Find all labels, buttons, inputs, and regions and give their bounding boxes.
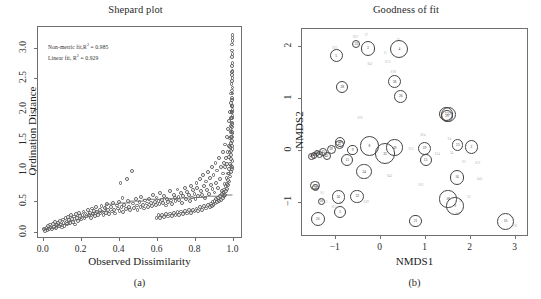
shepard-point xyxy=(170,202,174,206)
panel-a-annotation-nonmetric: Non-metric fit,R2 = 0.985 xyxy=(48,42,108,50)
shepard-point xyxy=(207,192,211,196)
gof-site-label: S13 xyxy=(385,60,390,64)
shepard-point xyxy=(113,212,117,216)
panel-b-x-tick xyxy=(335,236,336,239)
panel-b-x-tick xyxy=(380,236,381,239)
shepard-point xyxy=(230,139,234,143)
gof-bubble-label: 13 xyxy=(424,158,428,162)
panel-b-x-axis-title: NMDS1 xyxy=(301,255,528,267)
gof-bubble-label: 9 xyxy=(352,148,354,152)
shepard-point xyxy=(168,189,172,193)
panel-a-y-tick-label: 2.0 xyxy=(18,96,28,120)
gof-site-label: S15 xyxy=(408,147,413,151)
shepard-point xyxy=(204,180,208,184)
panel-b-x-tick-label: 2 xyxy=(450,242,490,252)
nmds-diagnostic-figure: Shepard plot Ordination Distance Observe… xyxy=(0,0,541,299)
gof-bubble-label: 39 xyxy=(329,147,333,151)
panel-a-x-tick xyxy=(157,238,158,241)
panel-a-x-tick-label: 0.6 xyxy=(137,244,177,254)
gof-site-label: S22 xyxy=(353,35,358,39)
panel-a-x-tick xyxy=(233,238,234,241)
panel-b-x-tick xyxy=(515,236,516,239)
gof-bubble-label: 21 xyxy=(414,219,418,223)
panel-a-x-axis-title: Observed Dissimilarity xyxy=(37,255,242,267)
shepard-point xyxy=(231,61,235,65)
gof-bubble-label: 11 xyxy=(346,158,349,162)
gof-bubble-label: 32 xyxy=(355,194,359,198)
panel-a-x-tick xyxy=(43,238,44,241)
annot-nonmetric-suffix: = 0.985 xyxy=(89,44,108,50)
panel-b-title: Goodness of fit xyxy=(271,4,541,15)
gof-site-label: S18 xyxy=(391,70,396,74)
panel-b-caption: (b) xyxy=(301,277,528,288)
gof-site-label: S4 xyxy=(448,137,452,141)
gof-bubble-label: 2 xyxy=(470,145,472,149)
panel-a-x-tick-label: 0.0 xyxy=(23,244,63,254)
shepard-point xyxy=(126,199,130,203)
gof-bubble-label: 3 xyxy=(367,46,369,50)
shepard-point xyxy=(203,196,207,200)
panel-b-y-tick-label: 2 xyxy=(283,34,293,56)
shepard-point xyxy=(231,147,235,151)
gof-site-label: 11 xyxy=(383,51,386,55)
shepard-point xyxy=(231,104,235,108)
shepard-point xyxy=(230,98,234,102)
panel-a-x-tick-label: 0.2 xyxy=(61,244,101,254)
shepard-point xyxy=(210,165,214,169)
panel-b-x-tick-label: 1 xyxy=(405,242,445,252)
shepard-point xyxy=(229,164,233,168)
panel-a-x-tick-label: 1.0 xyxy=(213,244,253,254)
shepard-point xyxy=(189,184,193,188)
panel-a-y-tick-label: 3.0 xyxy=(18,35,28,59)
panel-a-y-tick-label: 2.5 xyxy=(18,65,28,89)
shepard-point xyxy=(214,161,218,165)
gof-bubble-label: 35 xyxy=(383,152,387,156)
gof-bubble-label: 5 xyxy=(339,210,341,214)
shepard-point xyxy=(208,176,212,180)
shepard-point xyxy=(154,203,158,207)
panel-a-y-tick xyxy=(34,201,37,202)
gof-bubble-label: 50 xyxy=(319,199,323,203)
gof-bubble-label: 41 xyxy=(337,142,341,146)
panel-shepard-plot: Shepard plot Ordination Distance Observe… xyxy=(0,0,271,299)
gof-bubble-label: 23 xyxy=(354,42,358,46)
panel-b-x-tick xyxy=(425,236,426,239)
panel-a-y-tick-label: 1.0 xyxy=(18,157,28,181)
gof-bubble-label: 26 xyxy=(399,94,403,98)
panel-a-x-tick xyxy=(195,238,196,241)
gof-site-label: S14 xyxy=(435,152,440,156)
shepard-point xyxy=(147,197,151,201)
annot-linear-suffix: = 0.929 xyxy=(79,55,98,61)
panel-a-y-tick-label: 0.0 xyxy=(18,219,28,243)
gof-site-label: S24 xyxy=(420,133,425,137)
gof-site-label: 37 xyxy=(364,33,367,37)
gof-site-label: S1 xyxy=(462,160,466,164)
gof-bubble-label: 25 xyxy=(456,143,460,147)
gof-bubble-label: 30 xyxy=(316,217,320,221)
panel-b-y-tick-label: 1 xyxy=(283,86,293,108)
gof-bubble-label: 42 xyxy=(325,154,329,158)
gof-site-label: S29 xyxy=(364,200,369,204)
gof-site-label: S41 xyxy=(367,62,372,66)
gof-site-label: S43 xyxy=(477,177,482,181)
shepard-point xyxy=(198,177,202,181)
panel-a-title: Shepard plot xyxy=(0,4,271,15)
gof-bubble-label: 5 xyxy=(335,54,337,58)
gof-site-label: 34 xyxy=(450,151,453,155)
shepard-point xyxy=(227,172,231,176)
shepard-point xyxy=(212,173,216,177)
panel-a-x-tick xyxy=(119,238,120,241)
shepard-point xyxy=(130,169,134,173)
gof-bubble-label: 19 xyxy=(423,146,427,150)
panel-goodness-of-fit: Goodness of fit NMDS2 NMDS1 (b) −10123−1… xyxy=(271,0,541,299)
shepard-point xyxy=(226,178,230,182)
annot-nonmetric-prefix: Non-metric fit,R xyxy=(48,44,87,50)
gof-site-label: S6 xyxy=(514,224,518,228)
panel-a-y-tick xyxy=(34,109,37,110)
shepard-point xyxy=(231,52,235,56)
panel-a-y-tick xyxy=(34,232,37,233)
shepard-point xyxy=(183,186,187,190)
gof-site-label: S11 xyxy=(418,183,423,187)
gof-bubble-label: 4 xyxy=(399,47,401,51)
panel-b-y-tick xyxy=(298,98,301,99)
